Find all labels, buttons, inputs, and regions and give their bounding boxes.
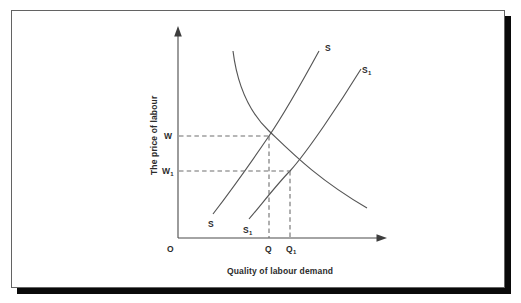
demand-curve — [233, 51, 367, 208]
shifted-supply-curve-bottom-label: S1 — [243, 226, 252, 235]
supply-curve-s1 — [249, 69, 361, 219]
x-tick-label-q: Q — [265, 245, 272, 254]
chart-drawing-surface — [12, 11, 506, 289]
shifted-supply-curve-top-label: S1 — [362, 66, 371, 75]
y-tick-label-w: W — [164, 132, 172, 141]
screenshot-page: W W1 O Q Q1 S S1 S — [0, 0, 521, 303]
x-axis-title: Quality of labour demand — [227, 267, 333, 276]
y-axis-title: The price of labour — [150, 96, 159, 175]
supply-curve-top-label: S — [325, 44, 331, 53]
supply-curve-s — [213, 51, 319, 214]
supply-demand-chart: W W1 O Q Q1 S S1 S — [12, 11, 506, 289]
supply-curve-bottom-label: S — [208, 220, 214, 229]
x-axis-arrowhead — [377, 234, 388, 242]
x-tick-label-q1: Q1 — [286, 245, 296, 254]
origin-label: O — [167, 245, 174, 254]
y-axis-arrowhead — [174, 26, 182, 37]
figure-frame: W W1 O Q Q1 S S1 S — [11, 10, 505, 288]
y-tick-label-w1: W1 — [162, 167, 173, 176]
